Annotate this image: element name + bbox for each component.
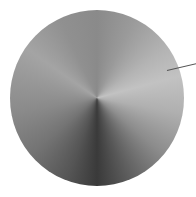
rotary-knob[interactable] (10, 10, 184, 186)
